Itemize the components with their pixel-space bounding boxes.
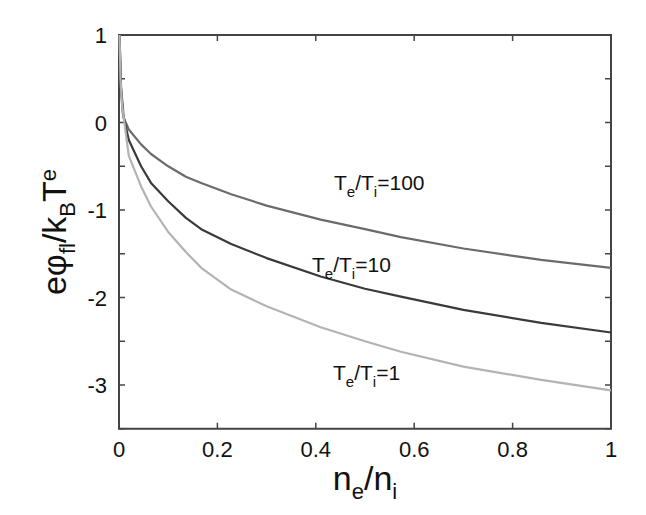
curve-label: Te/Ti=1 (333, 361, 400, 390)
y-tick-label: 0 (95, 111, 107, 136)
curve-te-ti-1 (120, 35, 612, 390)
x-tick-label: 0.6 (399, 437, 430, 462)
x-tick-label: 0.8 (497, 437, 528, 462)
chart: 00.20.40.60.81 10-1-2-3 Te/Ti=100Te/Ti=1… (0, 0, 646, 515)
x-tick-label: 0 (113, 437, 125, 462)
x-ticks: 00.20.40.60.81 (113, 35, 617, 462)
y-tick-label: -1 (87, 198, 107, 223)
y-tick-label: -2 (87, 286, 107, 311)
y-tick-label: -3 (87, 373, 107, 398)
x-tick-label: 0.2 (202, 437, 233, 462)
y-axis-title: eφfl/kBTe (35, 169, 80, 295)
curve-te-ti-100 (120, 35, 612, 268)
curves (120, 35, 612, 390)
x-axis-title: ne/ni (333, 459, 397, 504)
curve-label: Te/Ti=100 (334, 171, 425, 200)
x-tick-label: 0.4 (301, 437, 332, 462)
x-tick-label: 1 (605, 437, 617, 462)
curve-labels: Te/Ti=100Te/Ti=10Te/Ti=1 (312, 171, 425, 390)
y-tick-label: 1 (95, 23, 107, 48)
